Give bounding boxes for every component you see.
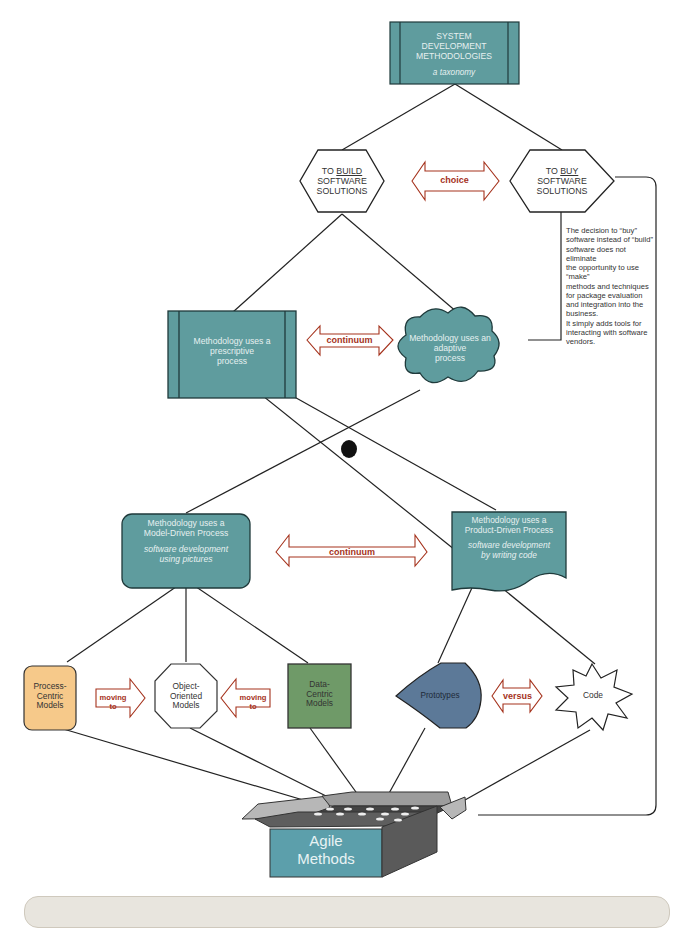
note-line: The decision to “buy” bbox=[566, 226, 678, 235]
data-centric-text: Data- Centric Models bbox=[288, 680, 351, 709]
buy-prefix: TO bbox=[546, 166, 561, 176]
moving-to-right-label: moving to bbox=[96, 693, 130, 711]
title-subtitle: a taxonomy bbox=[400, 68, 508, 77]
model-driven-line-4: using pictures bbox=[122, 555, 250, 565]
agile-line-1: Agile bbox=[270, 832, 382, 850]
continuum-mid-label: continuum bbox=[289, 547, 415, 557]
title-text: SYSTEM DEVELOPMENT METHODOLOGIES a taxon… bbox=[400, 32, 508, 77]
build-line-3: SOLUTIONS bbox=[300, 186, 384, 196]
agile-methods-text: Agile Methods bbox=[270, 832, 382, 868]
build-node-text: TO BUILD SOFTWARE SOLUTIONS bbox=[300, 166, 384, 196]
build-emphasis: BUILD bbox=[336, 166, 362, 176]
note-line: and integration into the bbox=[566, 300, 678, 309]
process-centric-line-3: Models bbox=[24, 701, 76, 711]
adaptive-text: Methodology uses an adaptive process bbox=[400, 334, 500, 364]
prescriptive-text: Methodology uses a prescriptive process bbox=[180, 337, 284, 367]
buy-note: The decision to “buy” software instead o… bbox=[566, 226, 678, 346]
moving-to-left-label: moving to bbox=[236, 693, 270, 711]
data-centric-line-3: Models bbox=[288, 699, 351, 709]
product-driven-text: Methodology uses a Product-Driven Proces… bbox=[452, 516, 566, 561]
note-line: software does not bbox=[566, 245, 678, 254]
build-prefix: TO bbox=[322, 166, 337, 176]
agile-line-2: Methods bbox=[270, 850, 382, 868]
product-driven-line-4: by writing code bbox=[452, 551, 566, 561]
buy-line-2: SOFTWARE bbox=[512, 176, 612, 186]
note-line: methods and techniques bbox=[566, 282, 678, 291]
note-line: “make” bbox=[566, 272, 678, 281]
note-line: business. bbox=[566, 309, 678, 318]
prototypes-label: Prototypes bbox=[400, 691, 480, 700]
product-driven-line-2: Product-Driven Process bbox=[452, 526, 566, 536]
note-line: eliminate bbox=[566, 254, 678, 263]
model-driven-text: Methodology uses a Model-Driven Process … bbox=[122, 519, 250, 565]
note-line: It simply adds tools for bbox=[566, 319, 678, 328]
note-line: vendors. bbox=[566, 337, 678, 346]
note-line: the opportunity to use bbox=[566, 263, 678, 272]
object-oriented-line-3: Models bbox=[155, 701, 217, 711]
choice-label: choice bbox=[425, 175, 484, 185]
model-driven-line-2: Model-Driven Process bbox=[122, 529, 250, 539]
process-centric-text: Process- Centric Models bbox=[24, 682, 76, 711]
buy-line-3: SOLUTIONS bbox=[512, 186, 612, 196]
junction-dot bbox=[341, 440, 357, 458]
buy-node-text: TO BUY SOFTWARE SOLUTIONS bbox=[512, 166, 612, 196]
adaptive-line-3: process bbox=[400, 354, 500, 364]
versus-label: versus bbox=[503, 691, 530, 701]
build-line-2: SOFTWARE bbox=[300, 176, 384, 186]
buy-emphasis: BUY bbox=[560, 166, 578, 176]
title-line-3: METHODOLOGIES bbox=[400, 52, 508, 62]
note-line: for package evaluation bbox=[566, 291, 678, 300]
note-line: interacting with software bbox=[566, 328, 678, 337]
prescriptive-line-3: process bbox=[180, 357, 284, 367]
note-line: software instead of “build” bbox=[566, 235, 678, 244]
code-label: Code bbox=[570, 691, 616, 701]
object-oriented-text: Object- Oriented Models bbox=[155, 682, 217, 711]
footer-panel bbox=[24, 896, 670, 928]
continuum-top-label: continuum bbox=[320, 335, 379, 345]
